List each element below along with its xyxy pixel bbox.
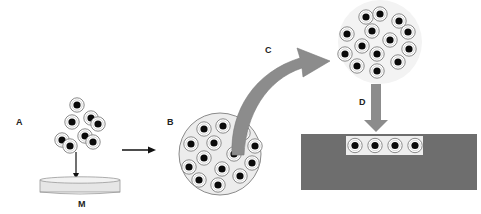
label-c: C: [265, 45, 272, 55]
spheroid-top: [338, 0, 422, 84]
spheroid-b: [179, 113, 262, 195]
cell-cluster-a: [55, 98, 105, 153]
label-a: A: [16, 117, 23, 127]
membrane-dish: [40, 177, 120, 194]
substrate-block: [301, 134, 477, 190]
down-arrow-d-icon: [364, 84, 388, 132]
label-b: B: [167, 117, 174, 127]
label-d: D: [359, 97, 366, 107]
arrow-right-icon: [122, 147, 156, 154]
drop-arrow-icon: [73, 152, 79, 179]
label-m: M: [78, 199, 86, 209]
diagram-canvas: [0, 0, 481, 214]
